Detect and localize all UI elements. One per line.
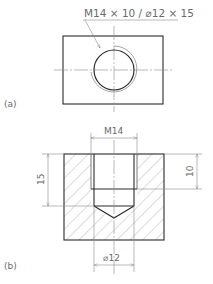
dim-15-text: 15 (36, 174, 46, 185)
view-a-top-view: M14 × 10 / ⌀12 × 15 (a) (4, 7, 194, 112)
callout-text: M14 × 10 / ⌀12 × 15 (84, 7, 194, 19)
dim-dia12-text: ⌀12 (103, 253, 120, 263)
dim-10-text: 10 (185, 165, 195, 177)
view-b-section-view: M14 15 10 ⌀12 (b) (4, 126, 202, 276)
view-a-label: (a) (4, 99, 17, 109)
dim-m14-text: M14 (104, 126, 123, 136)
view-b-label: (b) (4, 261, 17, 271)
callout-leader (85, 20, 100, 48)
technical-drawing: M14 × 10 / ⌀12 × 15 (a) M14 15 (0, 0, 213, 284)
